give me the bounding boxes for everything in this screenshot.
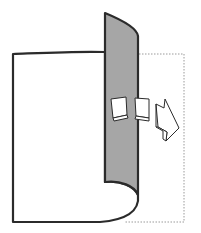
diagram-canvas	[0, 0, 201, 233]
small-page-right-icon	[135, 98, 149, 121]
small-page-left-icon	[111, 97, 128, 121]
page-turn-diagram	[0, 0, 201, 233]
turn-arrow-icon	[156, 99, 179, 141]
